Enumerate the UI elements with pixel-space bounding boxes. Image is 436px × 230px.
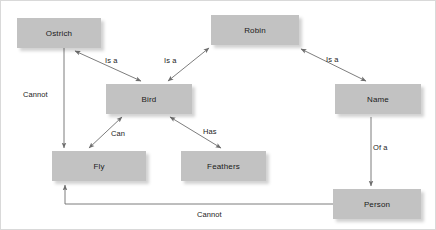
node-name[interactable]: Name (335, 84, 421, 114)
edge-person-fly (65, 185, 333, 204)
node-feathers[interactable]: Feathers (181, 151, 266, 181)
node-label-fly: Fly (93, 162, 104, 171)
edge-label-robin-bird: Is a (164, 56, 177, 65)
edge-label-person-fly: Cannot (197, 210, 222, 219)
node-label-name: Name (367, 95, 389, 104)
node-bird[interactable]: Bird (106, 84, 192, 114)
node-label-ostrich: Ostrich (46, 29, 72, 38)
edge-label-bird-feathers: Has (203, 127, 217, 136)
node-label-bird: Bird (142, 95, 157, 104)
node-person[interactable]: Person (333, 189, 421, 219)
edge-label-bird-fly: Can (111, 129, 125, 138)
node-label-person: Person (364, 200, 390, 209)
edge-label-name-person: Of a (373, 143, 388, 152)
node-label-robin: Robin (244, 26, 266, 35)
node-robin[interactable]: Robin (211, 15, 299, 45)
edge-label-ostrich-bird: Is a (105, 56, 118, 65)
diagram-canvas: Ostrich Robin Bird Name Fly Feathers Per… (0, 0, 436, 230)
edge-robin-name (301, 49, 366, 81)
node-ostrich[interactable]: Ostrich (17, 18, 101, 48)
edge-label-robin-name: Is a (326, 55, 339, 64)
node-fly[interactable]: Fly (52, 151, 146, 181)
node-label-feathers: Feathers (207, 162, 240, 171)
edge-label-ostrich-fly: Cannot (23, 90, 48, 99)
